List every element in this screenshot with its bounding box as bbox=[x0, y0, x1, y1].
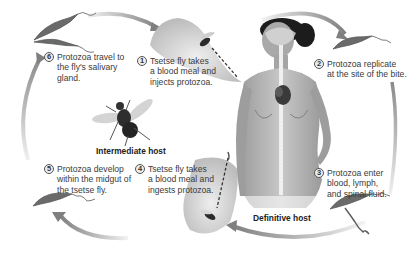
step-6: 6 Protozoa travel to the fly's salivary … bbox=[44, 52, 139, 83]
step-number-badge: 2 bbox=[314, 59, 324, 69]
step-description: Tsetse fly takes a blood meal and ingest… bbox=[135, 164, 235, 195]
step-description: Protozoa develop within the midgut of th… bbox=[44, 164, 139, 195]
step-description: Protozoa replicate at the site of the bi… bbox=[314, 59, 417, 80]
step-5: 5 Protozoa develop within the midgut of … bbox=[44, 164, 139, 195]
tsetse-fly-icon bbox=[92, 96, 156, 146]
step-4: 4 Tsetse fly takes a blood meal and inge… bbox=[135, 164, 235, 195]
step-number-badge: 5 bbox=[44, 164, 54, 174]
step-number-badge: 3 bbox=[314, 168, 324, 178]
step-3: 3 Protozoa enter blood, lymph, and spina… bbox=[314, 168, 414, 199]
step-1: 1 Tsetse fly takes a blood meal and inje… bbox=[137, 56, 237, 87]
step-description: Protozoa enter blood, lymph, and spinal … bbox=[314, 168, 414, 199]
tsetse-life-cycle-diagram: 6 Protozoa travel to the fly's salivary … bbox=[0, 0, 417, 254]
step-description: Tsetse fly takes a blood meal and inject… bbox=[137, 56, 237, 87]
intermediate-host-label: Intermediate host bbox=[96, 146, 166, 156]
step-2: 2 Protozoa replicate at the site of the … bbox=[314, 59, 417, 80]
step-number-badge: 1 bbox=[137, 56, 147, 66]
step-description: Protozoa travel to the fly's salivary gl… bbox=[44, 52, 139, 83]
step-number-badge: 6 bbox=[44, 52, 54, 62]
cycle-artwork bbox=[0, 0, 417, 254]
definitive-host-label: Definitive host bbox=[253, 213, 311, 223]
